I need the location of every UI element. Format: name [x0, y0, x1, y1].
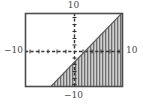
- plot-figure: 10 −10 −10 10: [0, 0, 143, 105]
- plot-area: [0, 0, 143, 105]
